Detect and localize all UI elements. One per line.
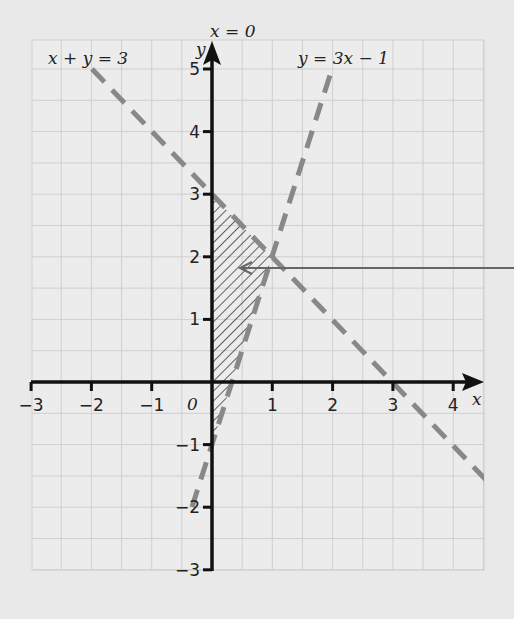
x-tick-label: −3 [19,395,44,415]
x-axis-label: x [472,389,482,409]
y-tick-label: 4 [189,122,200,142]
y-tick-label: −1 [175,435,200,455]
y-tick-label: 2 [189,247,200,267]
label-x-eq-0: x = 0 [210,21,256,41]
y-tick-label: 1 [189,309,200,329]
y-tick-label: 3 [189,184,200,204]
origin-label: 0 [187,394,198,414]
x-tick-label: −1 [139,395,164,415]
y-tick-label: 5 [189,59,200,79]
label-x-plus-y-eq-3: x + y = 3 [48,48,128,68]
x-tick-label: 4 [448,395,459,415]
y-tick-label: −3 [175,560,200,580]
x-tick-label: −2 [79,395,104,415]
y-tick-label: −2 [175,497,200,517]
x-tick-label: 1 [267,395,278,415]
x-tick-label: 3 [387,395,398,415]
graph: x + y = 3 y = 3x − 1 x = 0 y x 0 −3−2−11… [0,0,514,619]
x-tick-label: 2 [327,395,338,415]
label-y-eq-3x-minus-1: y = 3x − 1 [297,48,389,68]
y-axis-label: y [195,39,206,59]
